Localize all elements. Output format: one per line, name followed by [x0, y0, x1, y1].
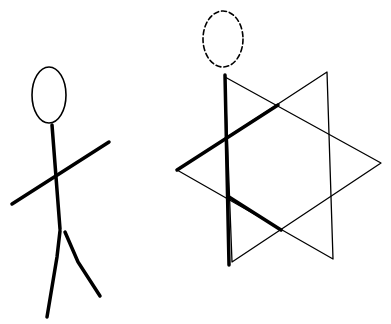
drawing-svg: [0, 0, 391, 324]
stick-figure-arms: [12, 142, 109, 204]
stick-figure-head: [32, 67, 66, 123]
stick-figure: [12, 67, 109, 317]
star-figure-thick-spine: [225, 75, 229, 265]
drawing-canvas: [0, 0, 391, 324]
star-triangle-right: [225, 77, 381, 262]
star-figure: [177, 11, 381, 265]
star-triangle-left: [177, 72, 333, 259]
star-figure-thick-leg: [229, 197, 281, 230]
stick-figure-right-leg: [65, 232, 100, 296]
star-figure-dashed-head: [203, 11, 243, 67]
stick-figure-left-leg: [47, 231, 60, 317]
